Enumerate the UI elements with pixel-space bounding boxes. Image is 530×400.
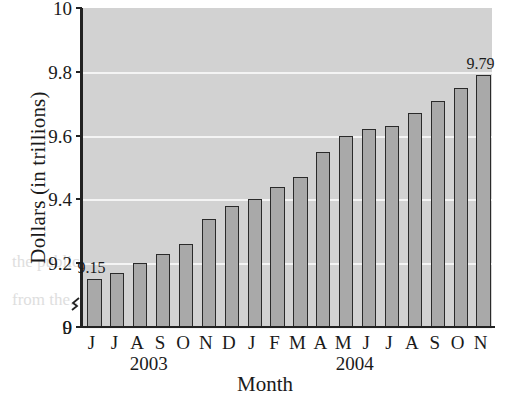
- x-tick-label: N: [466, 333, 496, 352]
- y-tick-mark: [76, 7, 82, 9]
- bar-value-label: 9.79: [459, 56, 503, 72]
- x-axis-group-label: 2003: [114, 354, 184, 373]
- y-tick-mark: [76, 135, 82, 137]
- y-tick-mark: [76, 71, 82, 73]
- x-axis-group-label: 2004: [320, 354, 390, 373]
- y-tick-mark: [76, 326, 82, 328]
- bar-value-label: 9.15: [69, 260, 113, 276]
- y-tick-label: 0: [28, 318, 72, 337]
- y-tick-label: 10: [28, 0, 72, 18]
- y-tick-label: 9.8: [28, 63, 72, 82]
- axis-break-icon: [70, 296, 90, 316]
- bar-chart-figure: the public, the from the... Dollars (in …: [0, 0, 530, 400]
- x-axis-title: Month: [0, 372, 530, 397]
- y-tick-label: 9.4: [28, 190, 72, 209]
- y-tick-label: 9.6: [28, 127, 72, 146]
- y-tick-label: 9.2: [28, 254, 72, 273]
- y-tick-mark: [76, 198, 82, 200]
